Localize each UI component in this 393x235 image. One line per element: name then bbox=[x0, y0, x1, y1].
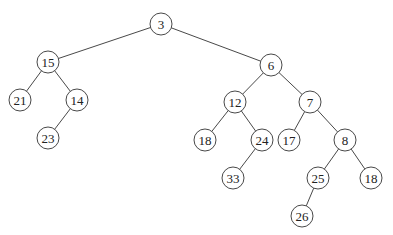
tree-node: 14 bbox=[66, 89, 88, 111]
node-label: 33 bbox=[227, 171, 240, 186]
node-label: 7 bbox=[307, 95, 314, 110]
tree-edge bbox=[27, 71, 42, 91]
tree-edge bbox=[324, 149, 338, 169]
tree-edge bbox=[317, 110, 337, 132]
tree-edge bbox=[294, 112, 304, 131]
tree-edge bbox=[240, 149, 256, 170]
tree-node: 24 bbox=[251, 129, 273, 151]
tree-edge bbox=[243, 73, 264, 94]
tree-node: 26 bbox=[291, 205, 313, 227]
tree-node: 18 bbox=[360, 167, 382, 189]
node-label: 25 bbox=[312, 171, 325, 186]
tree-edge bbox=[279, 73, 302, 95]
tree-node: 25 bbox=[307, 167, 329, 189]
tree-node: 15 bbox=[37, 51, 59, 73]
node-label: 24 bbox=[256, 133, 270, 148]
tree-node: 6 bbox=[260, 54, 282, 76]
node-label: 18 bbox=[199, 133, 212, 148]
tree-edge bbox=[55, 109, 71, 130]
tree-edge bbox=[58, 28, 150, 59]
tree-node: 21 bbox=[9, 89, 31, 111]
tree-diagram: 3156211423127182417833251826 bbox=[0, 0, 393, 235]
tree-edge bbox=[351, 149, 365, 169]
tree-edge bbox=[212, 111, 228, 132]
tree-node: 8 bbox=[334, 129, 356, 151]
tree-node: 7 bbox=[299, 91, 321, 113]
node-label: 17 bbox=[283, 133, 297, 148]
tree-node: 33 bbox=[222, 167, 244, 189]
tree-edge bbox=[171, 28, 260, 61]
tree-edge bbox=[241, 111, 255, 131]
node-label: 6 bbox=[268, 58, 275, 73]
tree-node: 3 bbox=[150, 13, 172, 35]
node-label: 18 bbox=[365, 171, 378, 186]
node-label: 15 bbox=[42, 55, 55, 70]
node-label: 8 bbox=[342, 133, 349, 148]
node-label: 3 bbox=[158, 17, 165, 32]
node-label: 23 bbox=[42, 131, 55, 146]
tree-edge bbox=[55, 71, 71, 92]
tree-node: 18 bbox=[194, 129, 216, 151]
tree-node: 17 bbox=[278, 129, 300, 151]
node-label: 14 bbox=[71, 93, 85, 108]
node-label: 26 bbox=[296, 209, 310, 224]
node-label: 12 bbox=[229, 95, 242, 110]
node-label: 21 bbox=[14, 93, 27, 108]
tree-node: 12 bbox=[224, 91, 246, 113]
tree-edge bbox=[306, 188, 313, 206]
tree-node: 23 bbox=[37, 127, 59, 149]
